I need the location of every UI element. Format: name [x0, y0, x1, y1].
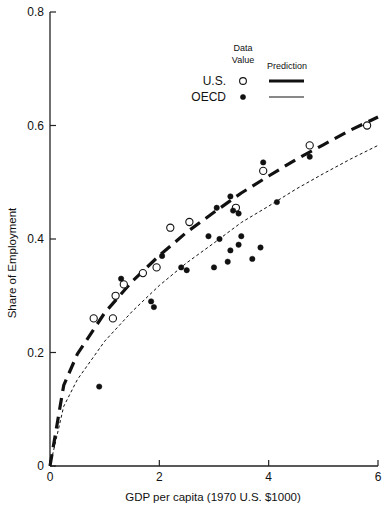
oecd-data-point — [230, 208, 235, 213]
oecd-data-point — [236, 242, 241, 247]
legend-label: OECD — [191, 90, 226, 104]
oecd-data-point — [214, 205, 219, 210]
oecd-data-point — [151, 304, 156, 309]
y-tick-label: 0.6 — [27, 119, 44, 133]
y-tick-label: 0.8 — [27, 5, 44, 19]
legend-header-value: Value — [232, 55, 254, 65]
us-data-point — [364, 122, 371, 129]
us-data-point — [260, 167, 267, 174]
oecd-data-point — [274, 199, 279, 204]
legend-label: U.S. — [203, 74, 226, 88]
us-data-point — [167, 224, 174, 231]
axes: 00.20.40.60.80246GDP per capita (1970 U.… — [6, 5, 382, 503]
oecd-data-point — [239, 234, 244, 239]
oecd-data-point — [225, 259, 230, 264]
oecd-data-point — [97, 384, 102, 389]
x-tick-label: 4 — [265, 470, 272, 484]
data-points — [90, 122, 371, 389]
x-tick-label: 0 — [47, 470, 54, 484]
oecd-prediction-curve — [50, 145, 378, 466]
y-tick-label: 0 — [37, 459, 44, 473]
legend-header-data: Data — [233, 43, 252, 53]
oecd-data-point — [258, 245, 263, 250]
oecd-data-point — [307, 154, 312, 159]
legend-filled-circle-icon — [240, 94, 245, 99]
y-tick-label: 0.2 — [27, 346, 44, 360]
oecd-data-point — [159, 253, 164, 258]
legend-open-circle-icon — [240, 78, 247, 85]
x-tick-label: 2 — [156, 470, 163, 484]
us-data-point — [90, 315, 97, 322]
oecd-data-point — [148, 299, 153, 304]
us-data-point — [112, 292, 119, 299]
oecd-data-point — [206, 234, 211, 239]
us-data-point — [109, 315, 116, 322]
chart: 00.20.40.60.80246GDP per capita (1970 U.… — [0, 0, 390, 505]
oecd-data-point — [261, 160, 266, 165]
oecd-data-point — [228, 248, 233, 253]
us-data-point — [153, 264, 160, 271]
prediction-curves — [50, 117, 378, 466]
y-tick-label: 0.4 — [27, 232, 44, 246]
oecd-data-point — [217, 236, 222, 241]
x-tick-label: 6 — [375, 470, 382, 484]
us-data-point — [186, 218, 193, 225]
us-data-point — [120, 281, 127, 288]
x-axis-title: GDP per capita (1970 U.S. $1000) — [125, 491, 301, 503]
oecd-data-point — [228, 194, 233, 199]
us-data-point — [139, 270, 146, 277]
oecd-data-point — [236, 211, 241, 216]
oecd-data-point — [250, 256, 255, 261]
us-data-point — [306, 142, 313, 149]
oecd-data-point — [179, 265, 184, 270]
us-prediction-curve — [50, 117, 378, 466]
oecd-data-point — [184, 268, 189, 273]
legend-header-prediction: Prediction — [267, 61, 307, 71]
oecd-data-point — [211, 265, 216, 270]
legend: DataValuePredictionU.S.OECD — [191, 43, 307, 104]
oecd-data-point — [118, 276, 123, 281]
y-axis-title: Share of Employment — [6, 207, 18, 318]
